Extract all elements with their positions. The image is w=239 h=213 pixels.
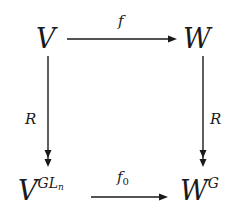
arrow-right-surjection (200, 56, 207, 167)
arrow-top (67, 36, 177, 43)
arrow-left-surjection (45, 56, 52, 167)
arrow-bottom (91, 194, 168, 201)
arrows-layer (0, 0, 239, 213)
